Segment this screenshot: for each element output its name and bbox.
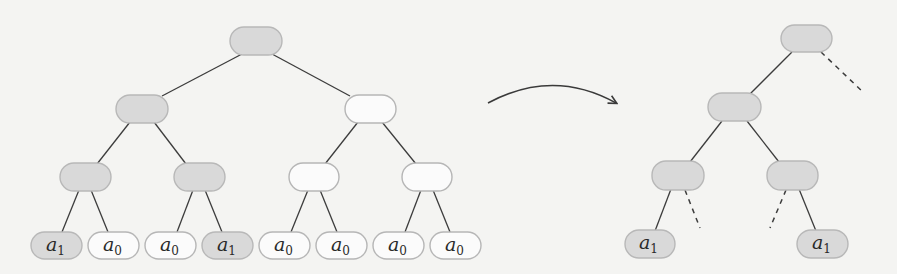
left-l1-node-2: [345, 95, 396, 123]
right-root-node: [781, 25, 832, 52]
right-tree-edges: [655, 52, 864, 231]
leaf-node: a1: [625, 230, 675, 258]
left-tree: a1 a0 a0 a1 a0 a0 a0 a0: [31, 27, 481, 259]
leaf-node: a0: [373, 232, 424, 259]
left-l2-node-3: [289, 163, 339, 191]
leaf-node: a0: [430, 232, 481, 259]
leaf-node: a1: [31, 232, 82, 259]
leaf-node: a1: [797, 230, 848, 258]
left-l2-node-4: [402, 163, 452, 191]
leaf-node: a0: [259, 232, 310, 259]
right-l2-node-2: [767, 161, 818, 190]
leaf-node: a0: [316, 232, 367, 259]
left-root-node: [230, 27, 282, 55]
left-l2-node-1: [60, 163, 111, 191]
leaf-node: a0: [88, 232, 139, 259]
leaf-node: a0: [145, 232, 196, 259]
right-l1-node: [708, 93, 761, 121]
left-l1-node-1: [116, 95, 168, 123]
tree-pruning-diagram: a1 a0 a0 a1 a0 a0 a0 a0: [0, 0, 897, 274]
left-tree-edges: [62, 54, 450, 232]
leaf-node: a1: [202, 232, 253, 259]
left-l2-node-2: [174, 163, 225, 191]
transform-arrow-icon: [488, 86, 616, 104]
right-l2-node-1: [652, 161, 704, 190]
